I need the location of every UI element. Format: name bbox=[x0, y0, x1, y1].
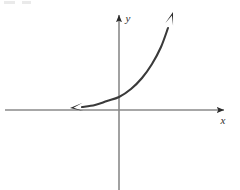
y-axis-label: y bbox=[125, 12, 131, 24]
coordinate-plane: y x bbox=[0, 0, 240, 190]
graph-figure: y x bbox=[0, 0, 240, 190]
exponential-curve bbox=[82, 28, 168, 107]
curve-right-arrowhead bbox=[165, 12, 173, 26]
x-axis-label: x bbox=[220, 114, 226, 126]
